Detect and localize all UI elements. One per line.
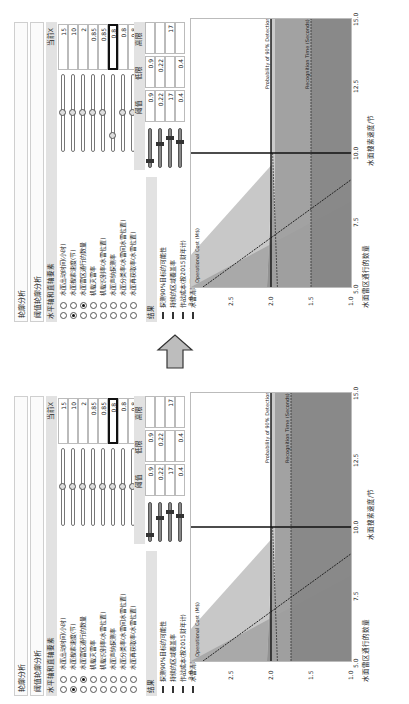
slider-knob[interactable] (119, 110, 126, 117)
slider-knob[interactable] (89, 110, 96, 117)
x-axis-radio[interactable] (100, 312, 107, 319)
factor-slider[interactable] (81, 74, 85, 152)
high-limit-value[interactable] (155, 22, 165, 54)
factor-slider[interactable] (91, 74, 95, 152)
low-limit-value[interactable] (165, 56, 175, 88)
threshold-slider-knob[interactable] (156, 142, 164, 146)
threshold-slider[interactable] (158, 502, 162, 542)
factor-slider[interactable] (71, 448, 75, 526)
y-axis-radio[interactable] (80, 302, 87, 309)
threshold-value[interactable]: 0.9 (145, 90, 155, 122)
factor-slider[interactable] (61, 448, 65, 526)
slider-knob[interactable] (99, 484, 106, 491)
y-axis-radio[interactable] (100, 302, 107, 309)
y-axis-radio[interactable] (80, 676, 87, 683)
slider-knob[interactable] (79, 110, 86, 117)
y-axis-radio[interactable] (120, 676, 127, 683)
current-value-input[interactable]: 0.85 (98, 24, 108, 70)
threshold-slider-knob[interactable] (166, 510, 174, 514)
x-axis-radio[interactable] (130, 686, 137, 693)
threshold-value[interactable]: 17 (165, 90, 175, 122)
y-axis-radio[interactable] (70, 676, 77, 683)
slider-knob[interactable] (59, 484, 66, 491)
threshold-slider[interactable] (148, 128, 152, 168)
y-axis-radio[interactable] (70, 302, 77, 309)
low-limit-value[interactable]: 0.9 (145, 56, 155, 88)
threshold-slider-knob[interactable] (176, 140, 184, 144)
current-value-input[interactable]: 0.8 (108, 398, 118, 444)
factor-slider[interactable] (101, 448, 105, 526)
high-limit-value[interactable] (175, 22, 185, 54)
current-value-input[interactable]: 0.85 (88, 398, 98, 444)
threshold-value[interactable]: 17 (165, 464, 175, 496)
y-axis-radio[interactable] (110, 302, 117, 309)
threshold-value[interactable]: 0.22 (155, 464, 165, 496)
low-limit-value[interactable]: 0.22 (155, 56, 165, 88)
slider-knob[interactable] (69, 110, 76, 117)
threshold-slider[interactable] (168, 128, 172, 168)
x-axis-radio[interactable] (60, 686, 67, 693)
current-value-input[interactable]: 0.85 (88, 24, 98, 70)
threshold-value[interactable]: 0.22 (155, 90, 165, 122)
y-axis-radio[interactable] (130, 302, 137, 309)
current-value-input[interactable]: 2 (78, 398, 88, 444)
high-limit-value[interactable] (145, 396, 155, 428)
threshold-slider[interactable] (158, 128, 162, 168)
low-limit-value[interactable]: 0.4 (175, 430, 185, 462)
x-axis-radio[interactable] (60, 312, 67, 319)
x-axis-radio[interactable] (110, 686, 117, 693)
factor-slider[interactable] (101, 74, 105, 152)
factor-slider[interactable] (71, 74, 75, 152)
factor-slider[interactable] (81, 448, 85, 526)
x-axis-radio[interactable] (120, 312, 127, 319)
x-axis-radio[interactable] (90, 686, 97, 693)
high-limit-value[interactable]: 17 (165, 22, 175, 54)
slider-knob[interactable] (99, 110, 106, 117)
factor-slider[interactable] (111, 74, 115, 152)
factor-slider[interactable] (91, 448, 95, 526)
slider-knob[interactable] (119, 484, 126, 491)
slider-knob[interactable] (109, 484, 116, 491)
low-limit-value[interactable]: 0.4 (175, 56, 185, 88)
y-axis-radio[interactable] (60, 676, 67, 683)
threshold-slider[interactable] (148, 502, 152, 542)
x-axis-radio[interactable] (70, 312, 77, 319)
slider-knob[interactable] (59, 110, 66, 117)
threshold-slider[interactable] (178, 502, 182, 542)
threshold-value[interactable]: 0.9 (145, 464, 155, 496)
x-axis-radio[interactable] (80, 686, 87, 693)
low-limit-value[interactable]: 0.9 (145, 430, 155, 462)
threshold-slider-knob[interactable] (146, 533, 154, 537)
current-value-input[interactable]: 10 (68, 24, 78, 70)
high-limit-value[interactable] (175, 396, 185, 428)
y-axis-radio[interactable] (120, 302, 127, 309)
current-value-input[interactable]: 0.8 (118, 24, 128, 70)
low-limit-value[interactable] (165, 430, 175, 462)
factor-slider[interactable] (121, 448, 125, 526)
current-value-input[interactable]: 15 (58, 398, 68, 444)
y-axis-radio[interactable] (90, 676, 97, 683)
x-axis-radio[interactable] (90, 312, 97, 319)
slider-knob[interactable] (89, 484, 96, 491)
threshold-slider[interactable] (178, 128, 182, 168)
x-axis-radio[interactable] (120, 686, 127, 693)
factor-slider[interactable] (111, 448, 115, 526)
threshold-value[interactable]: 0.4 (175, 90, 185, 122)
current-value-input[interactable]: 0.8 (118, 398, 128, 444)
y-axis-radio[interactable] (130, 676, 137, 683)
current-value-input[interactable]: 15 (58, 24, 68, 70)
threshold-slider[interactable] (168, 502, 172, 542)
x-axis-radio[interactable] (110, 312, 117, 319)
current-value-input[interactable]: 10 (68, 398, 78, 444)
y-axis-radio[interactable] (90, 302, 97, 309)
x-axis-radio[interactable] (130, 312, 137, 319)
threshold-slider-knob[interactable] (156, 516, 164, 520)
y-axis-radio[interactable] (110, 676, 117, 683)
x-axis-radio[interactable] (80, 312, 87, 319)
high-limit-value[interactable]: 17 (165, 396, 175, 428)
current-value-input[interactable]: 0.8 (108, 24, 118, 70)
current-value-input[interactable]: 0.85 (98, 398, 108, 444)
y-axis-radio[interactable] (100, 676, 107, 683)
threshold-value[interactable]: 0.4 (175, 464, 185, 496)
threshold-slider-knob[interactable] (176, 514, 184, 518)
